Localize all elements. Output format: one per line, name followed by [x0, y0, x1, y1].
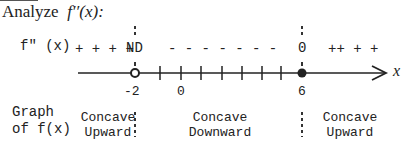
graph-label-line1: Graph: [12, 104, 71, 121]
open-circle-marker: [131, 69, 139, 77]
interval-line1: Concave: [80, 110, 136, 125]
right-signs: ++ + +: [328, 41, 378, 57]
interval-line2: Upward: [80, 125, 136, 140]
interval-line1: Concave: [180, 110, 260, 125]
interval-concavity-right: Concave Upward: [320, 110, 380, 140]
interval-concavity-middle: Concave Downward: [180, 110, 260, 140]
tick-label-minus-two: -2: [124, 84, 140, 99]
interval-line2: Upward: [320, 125, 380, 140]
left-signs: + + + +: [75, 41, 134, 57]
middle-signs: - - - - - - -: [168, 41, 277, 57]
tick-label-zero: 0: [177, 84, 185, 99]
filled-dot-marker: [298, 69, 307, 78]
graph-row-label: Graph of f(x): [12, 104, 71, 138]
interval-concavity-left: Concave Upward: [80, 110, 136, 140]
interval-line2: Downward: [180, 125, 260, 140]
interval-line1: Concave: [320, 110, 380, 125]
zero-label: 0: [298, 40, 306, 56]
tick-label-six: 6: [298, 84, 306, 99]
nd-label: ND: [126, 40, 143, 56]
f2-row-label: f" (x): [20, 38, 70, 54]
axis-variable: x: [393, 62, 400, 80]
graph-label-line2: of f(x): [12, 121, 71, 138]
